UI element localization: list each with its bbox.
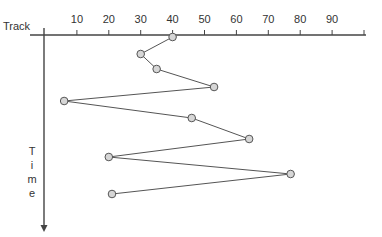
tick-label: 70 bbox=[262, 13, 274, 25]
data-point-marker bbox=[169, 33, 177, 41]
time-letter: T bbox=[29, 145, 36, 157]
track-time-chart: 102030405060708090 Track T i m e bbox=[0, 0, 382, 237]
tick-label: 60 bbox=[230, 13, 242, 25]
time-letter: m bbox=[27, 173, 36, 185]
tick-label: 90 bbox=[326, 13, 338, 25]
chart-canvas: 102030405060708090 Track T i m e bbox=[0, 0, 382, 237]
data-point-marker bbox=[287, 170, 295, 178]
tick-label: 20 bbox=[103, 13, 115, 25]
axes bbox=[30, 28, 366, 232]
data-point-marker bbox=[137, 50, 145, 58]
seek-path-line bbox=[64, 37, 290, 194]
tick-label: 50 bbox=[198, 13, 210, 25]
data-point-marker bbox=[245, 135, 253, 143]
tick-label: 80 bbox=[294, 13, 306, 25]
seek-path-markers bbox=[60, 33, 294, 198]
track-axis-label: Track bbox=[3, 20, 31, 32]
data-point-marker bbox=[153, 65, 161, 73]
tick-label: 40 bbox=[166, 13, 178, 25]
track-ticks bbox=[77, 30, 364, 35]
track-tick-labels: 102030405060708090 bbox=[71, 13, 338, 25]
time-axis-label: T i m e bbox=[27, 145, 36, 199]
time-letter: e bbox=[29, 187, 35, 199]
tick-label: 30 bbox=[135, 13, 147, 25]
data-point-marker bbox=[188, 114, 196, 122]
tick-label: 10 bbox=[71, 13, 83, 25]
time-arrow-icon bbox=[41, 225, 48, 232]
time-letter: i bbox=[31, 159, 33, 171]
data-point-marker bbox=[210, 83, 218, 91]
data-point-marker bbox=[105, 153, 113, 161]
data-point-marker bbox=[108, 190, 116, 198]
data-point-marker bbox=[60, 97, 68, 105]
